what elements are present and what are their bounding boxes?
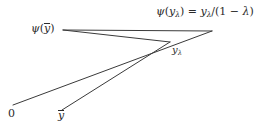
line-origin-to-apex bbox=[13, 31, 212, 105]
label-psi-y-lambda-formula: ψ(yλ) = yλ/(1 − λ) bbox=[156, 6, 254, 19]
figure-canvas: ψ(yλ) = yλ/(1 − λ) ψ(y) yλ 0 y bbox=[0, 0, 268, 128]
formula-denominator-open: /(1 − bbox=[211, 5, 242, 18]
diagram-lines bbox=[0, 0, 268, 128]
label-y-bar-point: y bbox=[58, 109, 64, 121]
ybar-overbar-y: y bbox=[58, 109, 64, 121]
line-psi-ybar-to-y-lambda bbox=[63, 30, 170, 42]
psi-ybar-psi-symbol: ψ bbox=[31, 22, 40, 35]
label-origin: 0 bbox=[8, 108, 15, 119]
formula-denominator-close: ) bbox=[250, 5, 254, 18]
formula-psi-symbol: ψ bbox=[156, 5, 165, 18]
label-y-lambda-point: yλ bbox=[172, 45, 182, 57]
formula-equals-sign: = bbox=[184, 5, 200, 18]
line-psi-ybar-to-apex bbox=[63, 30, 212, 31]
y-lambda-subscript: λ bbox=[178, 49, 182, 57]
formula-denominator-lambda: λ bbox=[243, 5, 250, 18]
label-psi-y-bar: ψ(y) bbox=[31, 22, 54, 34]
psi-ybar-overbar-y: y bbox=[44, 22, 50, 34]
line-ybar-to-y-lambda bbox=[62, 42, 170, 110]
psi-ybar-close-paren: ) bbox=[50, 22, 54, 35]
